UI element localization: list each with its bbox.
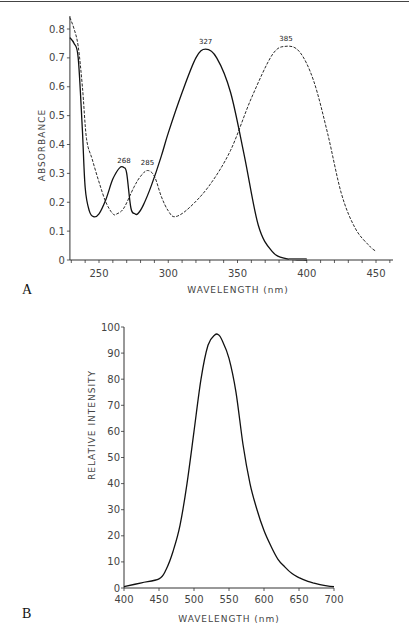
svg-text:350: 350 — [228, 268, 247, 279]
svg-text:250: 250 — [89, 268, 108, 279]
svg-text:450: 450 — [149, 594, 168, 605]
svg-text:10: 10 — [107, 556, 120, 567]
absorbance-axes: 25030035040045000.10.20.30.40.50.60.70.8 — [49, 16, 393, 279]
absorbance-series — [70, 18, 376, 261]
y-axis-label-b: RELATIVE INTENSITY — [87, 370, 97, 480]
peak-label: 285 — [141, 159, 154, 167]
x-axis-label-b: WAVELENGTH (nm) — [178, 614, 280, 624]
peak-label: 327 — [199, 38, 212, 46]
svg-text:400: 400 — [297, 268, 316, 279]
peak-label: 385 — [279, 35, 292, 43]
emission-curve — [124, 334, 334, 587]
svg-text:0.6: 0.6 — [49, 81, 65, 92]
emission-axes: 4004505005506006507000102030405060708090… — [101, 322, 344, 606]
svg-text:0.3: 0.3 — [49, 168, 65, 179]
svg-text:550: 550 — [219, 594, 238, 605]
svg-text:50: 50 — [107, 452, 120, 463]
svg-text:20: 20 — [107, 530, 120, 541]
svg-text:0.1: 0.1 — [49, 226, 65, 237]
dashed-curve — [70, 18, 376, 252]
svg-text:600: 600 — [254, 594, 273, 605]
svg-text:400: 400 — [114, 594, 133, 605]
panel-label-b: B — [22, 606, 31, 621]
svg-text:0: 0 — [114, 583, 120, 594]
svg-text:700: 700 — [324, 594, 343, 605]
absorbance-chart: 25030035040045000.10.20.30.40.50.60.70.8… — [0, 0, 409, 320]
svg-text:300: 300 — [159, 268, 178, 279]
svg-text:450: 450 — [366, 268, 385, 279]
panel-label-a: A — [22, 282, 33, 297]
svg-text:30: 30 — [107, 504, 120, 515]
svg-text:0: 0 — [59, 255, 65, 266]
emission-series — [124, 334, 334, 587]
peak-label: 268 — [117, 157, 130, 165]
svg-text:0.7: 0.7 — [49, 52, 65, 63]
svg-text:0.2: 0.2 — [49, 197, 65, 208]
svg-text:650: 650 — [289, 594, 308, 605]
svg-text:0.4: 0.4 — [49, 139, 65, 150]
svg-text:70: 70 — [107, 400, 120, 411]
svg-text:0.8: 0.8 — [49, 24, 65, 35]
svg-text:80: 80 — [107, 374, 120, 385]
svg-text:40: 40 — [107, 478, 120, 489]
peak-annotations: 268285327385 — [117, 35, 292, 167]
svg-text:0.5: 0.5 — [49, 110, 65, 121]
y-axis-label: ABSORBANCE — [37, 109, 47, 181]
solid-curve — [70, 38, 307, 260]
svg-text:60: 60 — [107, 426, 120, 437]
x-axis-label: WAVELENGTH (nm) — [187, 285, 289, 295]
svg-text:500: 500 — [184, 594, 203, 605]
svg-text:90: 90 — [107, 348, 120, 359]
svg-text:100: 100 — [101, 322, 120, 333]
